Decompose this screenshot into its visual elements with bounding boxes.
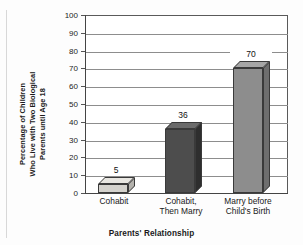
y-axis-tick-label: 100 [52,11,78,20]
y-axis-tick-labels: 0102030405060708090100 [48,0,78,245]
bar-marry-before-childs-birth [233,61,270,193]
y-axis-tick-label: 90 [52,28,78,37]
gridline [85,34,288,35]
y-axis-tick [81,122,85,123]
category-label-cohabit-then-marry-line-2: Then Marry [145,206,217,216]
bar-cohabit [98,177,135,193]
y-axis-tick-label: 0 [52,189,78,198]
category-label-cohabit-then-marry-line-1: Cohabit, [145,196,217,206]
y-axis-tick-label: 80 [52,46,78,55]
y-axis-tick [81,33,85,34]
bar-cohabit-then-marry-side-face [195,122,202,193]
y-axis-title-line-1: Percentage of Children [18,83,28,165]
y-axis-title-line-3: Parents until Age 18 [38,88,48,160]
bar-marry-before-childs-birth-side-face [263,61,270,193]
bar-marry-before-childs-birth-front-face [233,68,263,193]
bar-cohabit-then-marry-front-face [165,129,195,193]
category-label-cohabit-line-1: Cohabit [78,196,150,206]
y-axis-tick-label: 40 [52,117,78,126]
bar-cohabit-value-label: 5 [95,165,137,175]
category-label-marry-before-childs-birth-line-2: Child's Birth [212,206,284,216]
y-axis-tick [81,157,85,158]
y-axis-tick [81,15,85,16]
x-axis-title: Parents' Relationship [0,229,303,238]
bar-marry-before-childs-birth-value-label: 70 [230,49,272,59]
y-axis-tick [81,193,85,194]
y-axis-tick-label: 30 [52,135,78,144]
y-axis-tick [81,51,85,52]
y-axis-tick [81,104,85,105]
y-axis-tick [81,140,85,141]
y-axis-tick-label: 60 [52,82,78,91]
y-axis-tick [81,86,85,87]
category-label-cohabit-then-marry: Cohabit, Then Marry [145,196,217,217]
y-axis-tick-label: 20 [52,153,78,162]
bar-chart-figure: Percentage of Children Who Live with Two… [0,0,303,245]
category-label-marry-before-childs-birth: Marry before Child's Birth [212,196,284,217]
y-axis-tick-label: 50 [52,100,78,109]
y-axis-title-line-2: Who Live with Two Biological [28,72,38,177]
page-edge-line [6,10,7,238]
y-axis-tick-label: 70 [52,64,78,73]
bar-cohabit-then-marry [165,122,202,193]
y-axis-tick [81,175,85,176]
category-label-marry-before-childs-birth-line-1: Marry before [212,196,284,206]
y-axis-tick [81,68,85,69]
bar-cohabit-front-face [98,184,128,193]
category-label-cohabit: Cohabit [78,196,150,206]
y-axis-tick-label: 10 [52,171,78,180]
y-axis-title: Percentage of Children Who Live with Two… [16,44,50,204]
bar-cohabit-then-marry-value-label: 36 [162,110,204,120]
